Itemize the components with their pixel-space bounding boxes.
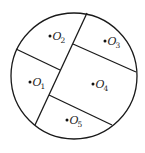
point-marker-icon [66, 119, 69, 122]
region-label-o1: O1 [29, 76, 46, 91]
region-label-o3: O3 [104, 35, 121, 50]
region-label-o5: O5 [66, 114, 83, 129]
point-marker-icon [104, 40, 107, 43]
point-marker-icon [29, 81, 32, 84]
partitioned-circle-diagram: O1O2O3O4O5 [0, 0, 145, 153]
point-marker-icon [92, 83, 95, 86]
partition-line-o3-o4-divider [73, 44, 136, 72]
region-subscript: 2 [61, 36, 66, 45]
region-label-o2: O2 [49, 30, 66, 45]
region-label-o4: O4 [92, 78, 109, 93]
region-subscript: 3 [116, 41, 121, 50]
region-subscript: 4 [104, 84, 109, 93]
region-subscript: 5 [78, 120, 83, 129]
partition-lines [16, 13, 136, 125]
point-marker-icon [49, 35, 52, 38]
partition-line-o1-o2-divider [16, 49, 60, 70]
region-subscript: 1 [41, 82, 46, 91]
